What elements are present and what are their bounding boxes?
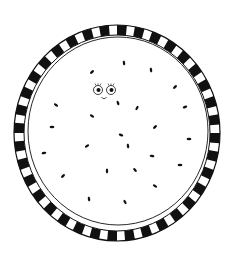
right-pupil-icon [110,88,114,92]
rind-stripe [210,133,220,143]
rind-stripe [99,25,110,36]
seed [50,126,55,128]
watermelon-flesh [28,37,208,225]
rind-stripe [14,123,24,133]
seed [106,169,108,174]
rind-stripe [124,230,135,241]
seed [178,164,183,166]
left-pupil-icon [97,88,101,92]
watermelon-illustration [0,0,233,255]
seed [187,138,192,140]
rind-stripe [117,25,127,35]
illustration-canvas [0,0,233,255]
flesh-outline [28,37,208,225]
rind-stripe [209,114,220,125]
rind-stripe [107,231,117,241]
rind-stripe [14,141,25,152]
